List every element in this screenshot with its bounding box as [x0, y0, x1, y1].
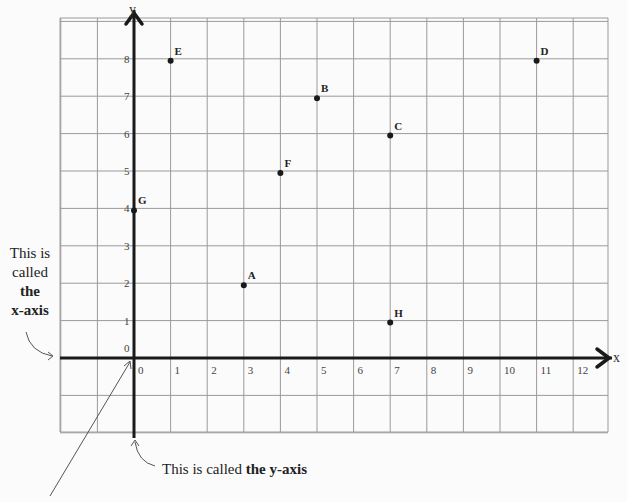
x-tick-label: 2 [211, 364, 217, 376]
point-e [168, 58, 174, 64]
y-axis-note-prefix: This is called [162, 461, 246, 477]
x-tick-label: 6 [358, 364, 364, 376]
y-tick-label: 0 [124, 342, 130, 354]
point-label-a: A [248, 269, 256, 281]
point-h [387, 320, 393, 326]
y-tick-label: 3 [124, 240, 130, 252]
x-axis-label: x [613, 350, 620, 365]
point-c [387, 133, 393, 139]
y-tick-label: 5 [124, 165, 130, 177]
point-label-c: C [394, 120, 402, 132]
point-label-g: G [138, 194, 147, 206]
y-tick-label: 8 [124, 53, 130, 65]
y-tick-label: 2 [124, 277, 130, 289]
origin-pointer-arrowhead-icon [124, 361, 131, 369]
point-a [241, 282, 247, 288]
x-axis-note: This is called the x-axis [4, 244, 56, 320]
x-tick-label: 7 [394, 364, 400, 376]
y-tick-label: 6 [124, 128, 130, 140]
x-tick-label: 12 [577, 364, 588, 376]
point-label-d: D [541, 45, 549, 57]
origin-pointer-line [50, 362, 130, 496]
x-tick-label: 10 [504, 364, 516, 376]
point-label-b: B [321, 82, 329, 94]
y-axis-note-bold: the y-axis [246, 461, 307, 477]
x-tick-label: 11 [541, 364, 552, 376]
coordinate-grid: xy0123456789101112012345678ABCDEFGH [0, 0, 627, 502]
point-label-f: F [284, 157, 291, 169]
x-tick-label: 1 [175, 364, 181, 376]
x-tick-label: 8 [431, 364, 437, 376]
x-tick-label: 3 [248, 364, 254, 376]
y-axis-label: y [129, 2, 136, 17]
point-b [314, 95, 320, 101]
x-axis-note-line1: This is [4, 244, 56, 263]
y-tick-label: 1 [124, 315, 130, 327]
y-axis-note-arrow [135, 442, 155, 466]
x-tick-label: 4 [284, 364, 290, 376]
x-tick-label: 5 [321, 364, 327, 376]
x-axis-note-line4: x-axis [4, 301, 56, 320]
point-g [131, 207, 137, 213]
point-f [277, 170, 283, 176]
x-tick-label: 9 [467, 364, 473, 376]
x-axis-note-line2: called [4, 263, 56, 282]
x-axis-note-line3: the [4, 282, 56, 301]
y-tick-label: 4 [124, 202, 130, 214]
y-axis-note: This is called the y-axis [162, 460, 307, 479]
point-label-h: H [394, 307, 403, 319]
point-d [534, 58, 540, 64]
y-tick-label: 7 [124, 90, 130, 102]
point-label-e: E [175, 45, 182, 57]
x-tick-label: 0 [138, 364, 144, 376]
